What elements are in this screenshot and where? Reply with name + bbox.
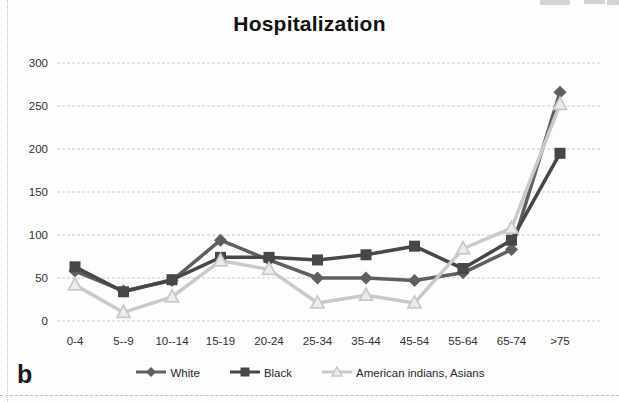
legend-item-black: Black (228, 365, 292, 381)
white-series-diamond-icon (134, 365, 168, 381)
x-tick-label: 10--14 (155, 335, 189, 347)
hospitalization-line-chart: 0501001502002503000-45--910--1415-1920-2… (0, 0, 619, 402)
x-tick-label: 0-4 (67, 335, 84, 347)
x-tick-label: 25-34 (303, 335, 333, 347)
legend-label-black: Black (264, 367, 292, 379)
y-tick-label: 200 (29, 143, 48, 155)
legend-item-white: White (134, 365, 199, 381)
figure-panel: Hospitalization 0501001502002503000-45--… (0, 0, 619, 402)
american-indians-asians-series-triangle-icon (320, 365, 354, 381)
black-series-square-icon (228, 365, 262, 381)
y-tick-label: 100 (29, 229, 48, 241)
panel-label-b: b (17, 360, 32, 389)
y-tick-label: 150 (29, 186, 48, 198)
x-tick-label: 45-54 (400, 335, 430, 347)
x-tick-label: >75 (550, 335, 570, 347)
y-tick-label: 300 (29, 57, 48, 69)
x-tick-label: 15-19 (206, 335, 235, 347)
y-tick-label: 250 (29, 100, 48, 112)
chart-legend: White Black American indians, Asians (0, 363, 619, 383)
x-tick-label: 65-74 (497, 335, 527, 347)
y-tick-label: 50 (35, 272, 48, 284)
legend-item-american-indians-asians: American indians, Asians (320, 365, 484, 381)
legend-label-american-indians-asians: American indians, Asians (356, 367, 484, 379)
x-tick-label: 20-24 (254, 335, 284, 347)
y-tick-label: 0 (42, 315, 48, 327)
x-tick-label: 55-64 (448, 335, 478, 347)
x-tick-label: 5--9 (113, 335, 133, 347)
x-tick-label: 35-44 (351, 335, 381, 347)
legend-label-white: White (170, 367, 199, 379)
